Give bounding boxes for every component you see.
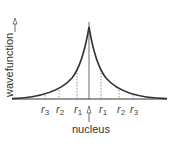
r3-right-label: r3 [130, 104, 138, 117]
r3-left-label: r3 [41, 104, 49, 117]
y-axis-arrow-head-icon [13, 18, 17, 24]
r2-right-label: r2 [117, 104, 125, 117]
nucleus-arrow-head-icon [87, 106, 91, 113]
r2-left-label: r2 [56, 104, 64, 117]
nucleus-label: nucleus [72, 124, 110, 135]
y-axis-label: wavefunction [3, 33, 15, 97]
wavefunction-curve [12, 27, 167, 99]
r1-right-label: r1 [99, 104, 107, 117]
r1-left-label: r1 [74, 104, 82, 117]
